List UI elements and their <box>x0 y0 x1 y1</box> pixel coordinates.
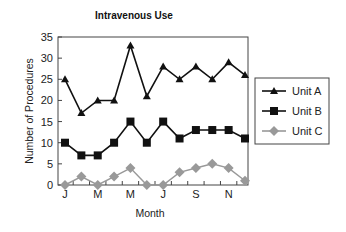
data-point-unit-b <box>225 126 233 134</box>
data-point-unit-b <box>176 134 184 142</box>
data-point-unit-b <box>241 134 249 142</box>
line-chart: Intravenous Use 05101520253035 JMMJSN Nu… <box>0 0 346 232</box>
legend-label: Unit B <box>292 105 322 117</box>
y-tick-label: 30 <box>41 52 53 64</box>
data-point-unit-b <box>143 139 151 147</box>
y-tick-label: 25 <box>41 73 53 85</box>
x-tick-label: S <box>192 188 199 200</box>
plot-area <box>58 37 248 185</box>
chart-title: Intravenous Use <box>95 10 173 21</box>
data-point-unit-b <box>159 118 167 126</box>
legend-label: Unit C <box>292 125 323 137</box>
legend-label: Unit A <box>292 85 322 97</box>
data-point-unit-b <box>61 139 69 147</box>
data-point-unit-b <box>77 151 85 159</box>
y-axis-label: Number of Procedures <box>23 58 35 164</box>
y-tick-label: 15 <box>41 116 53 128</box>
data-point-unit-b <box>110 139 118 147</box>
data-point-unit-b <box>192 126 200 134</box>
data-point-unit-b <box>94 151 102 159</box>
x-tick-label: M <box>126 188 135 200</box>
data-point-unit-b <box>126 118 134 126</box>
y-tick-label: 5 <box>47 158 53 170</box>
y-tick-label: 35 <box>41 31 53 43</box>
y-tick-label: 20 <box>41 94 53 106</box>
data-point-unit-b <box>208 126 216 134</box>
y-tick-label: 10 <box>41 137 53 149</box>
x-tick-label: N <box>225 188 233 200</box>
legend-marker-square-icon <box>270 107 278 115</box>
y-tick-label: 0 <box>47 179 53 191</box>
x-axis-label: Month <box>135 207 164 219</box>
